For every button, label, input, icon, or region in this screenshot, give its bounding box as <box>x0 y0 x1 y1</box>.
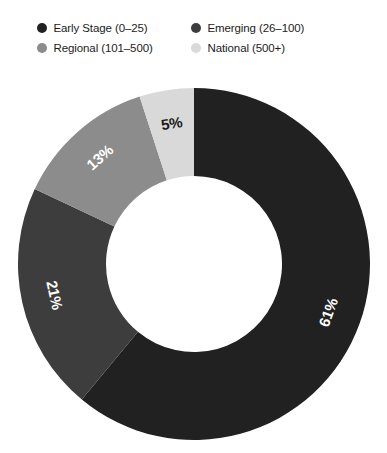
donut-chart-figure: Early Stage (0–25) Emerging (26–100) Reg… <box>0 0 387 453</box>
legend-item-emerging[interactable]: Emerging (26–100) <box>191 18 351 38</box>
circle-swatch-icon <box>37 23 47 33</box>
circle-swatch-icon <box>191 23 201 33</box>
legend-item-label: Emerging (26–100) <box>208 22 305 34</box>
donut-slice-group <box>18 88 370 440</box>
chart-legend: Early Stage (0–25) Emerging (26–100) Reg… <box>0 18 387 74</box>
donut-plot-area: 61%21%13%5% <box>18 88 370 440</box>
donut-slice-label: 5% <box>160 113 184 133</box>
legend-item-label: Early Stage (0–25) <box>54 22 148 34</box>
circle-swatch-icon <box>191 43 201 53</box>
donut-svg: 61%21%13%5% <box>18 88 370 440</box>
legend-item-label: Regional (101–500) <box>54 42 153 54</box>
legend-item-label: National (500+) <box>208 42 285 54</box>
circle-swatch-icon <box>37 43 47 53</box>
legend-item-regional[interactable]: Regional (101–500) <box>37 38 185 58</box>
legend-item-early-stage[interactable]: Early Stage (0–25) <box>37 18 185 38</box>
legend-item-national[interactable]: National (500+) <box>191 38 351 58</box>
